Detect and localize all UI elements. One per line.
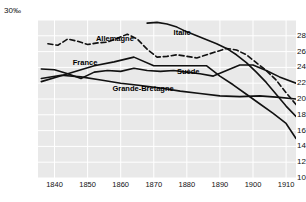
gridlines — [38, 20, 296, 178]
birth-rate-line-chart: 30‰ 3028262422201816141210 1840185018601… — [0, 0, 306, 202]
series-label-italie: Italie — [174, 29, 191, 37]
series-line-italie — [147, 22, 296, 116]
series-line-su-de — [41, 57, 296, 138]
series-label-su-de: Suède — [177, 68, 200, 76]
series-label-france: France — [73, 59, 98, 67]
series-label-allemagne: Allemagne — [96, 35, 134, 43]
plot-svg — [38, 20, 296, 178]
series-lines — [41, 22, 296, 138]
y-axis-unit-label: 30‰ — [4, 7, 21, 15]
plot-area — [38, 20, 296, 178]
x-tick-1910: 1910 — [266, 181, 306, 189]
series-line-allemagne — [48, 34, 296, 104]
series-label-grande-bretagne: Grande-Bretagne — [112, 85, 173, 93]
